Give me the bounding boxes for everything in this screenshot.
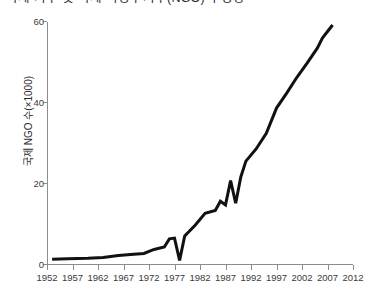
x-tick-mark: [277, 265, 278, 270]
x-tick-label: 2007: [317, 272, 338, 283]
x-tick-mark: [124, 265, 125, 270]
plot-area: 0204060 19521957196219671972197719821987…: [47, 22, 353, 264]
x-tick-label: 1967: [113, 272, 134, 283]
x-tick-mark: [226, 265, 227, 270]
x-tick-mark: [328, 265, 329, 270]
x-tick-label: 1987: [215, 272, 236, 283]
x-tick-mark: [98, 265, 99, 270]
x-tick-label: 1952: [36, 272, 57, 283]
chart-screenshot: 국제 기구 및 국제 비정부기구(NGO)의 성장 국제 NGO 수(×1000…: [0, 0, 375, 302]
x-tick-mark: [73, 265, 74, 270]
y-tick-label: 40: [33, 98, 44, 108]
y-tick-label: 20: [33, 179, 44, 189]
x-tick-label: 1997: [266, 272, 287, 283]
x-tick-mark: [251, 265, 252, 270]
x-tick-label: 1957: [62, 272, 83, 283]
x-tick-label: 1972: [138, 272, 159, 283]
x-tick-label: 1962: [87, 272, 108, 283]
x-tick-mark: [200, 265, 201, 270]
x-tick-mark: [149, 265, 150, 270]
x-tick-mark: [175, 265, 176, 270]
x-tick-mark: [353, 265, 354, 270]
x-tick-mark: [302, 265, 303, 270]
x-tick-mark: [47, 265, 48, 270]
x-tick-label: 2012: [342, 272, 363, 283]
x-tick-label: 1982: [189, 272, 210, 283]
data-series-line: [47, 22, 353, 265]
x-tick-label: 2002: [291, 272, 312, 283]
x-tick-label: 1992: [240, 272, 261, 283]
y-tick-label: 0: [39, 260, 44, 270]
x-tick-label: 1977: [164, 272, 185, 283]
chart-title: 국제 기구 및 국제 비정부기구(NGO)의 성장: [6, 0, 366, 5]
y-axis-title: 국제 NGO 수(×1000): [22, 0, 36, 242]
y-tick-label: 60: [33, 17, 44, 27]
